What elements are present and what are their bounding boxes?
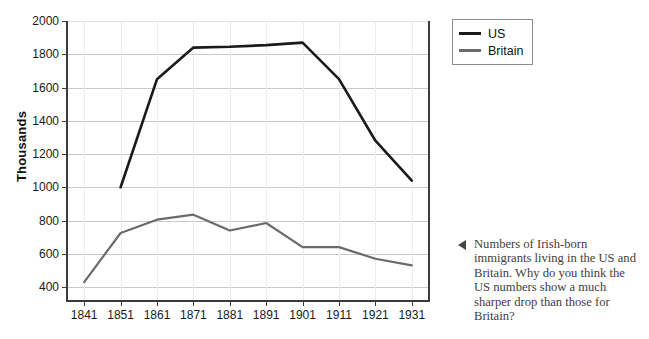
plot-area: 400600800100012001400160018002000 184118… — [66, 21, 430, 302]
x-tick-label-1891: 1891 — [253, 308, 280, 322]
y-tick-label-1200: 1200 — [32, 147, 59, 161]
x-tick-label-1861: 1861 — [144, 308, 171, 322]
x-tick-label-1851: 1851 — [107, 308, 134, 322]
caption-triangle-icon — [458, 240, 466, 250]
legend-item-britain[interactable]: Britain — [459, 42, 523, 59]
legend-item-us[interactable]: US — [459, 25, 523, 42]
x-tick-label-1881: 1881 — [216, 308, 243, 322]
y-tick-label-1800: 1800 — [32, 47, 59, 61]
x-tick-label-1871: 1871 — [180, 308, 207, 322]
x-tick-label-1921: 1921 — [362, 308, 389, 322]
y-tick-label-1000: 1000 — [32, 180, 59, 194]
x-tick-label-1901: 1901 — [289, 308, 316, 322]
caption-text: Numbers of Irish-born immigrants living … — [474, 237, 644, 323]
figure-caption: Numbers of Irish-born immigrants living … — [458, 237, 644, 323]
x-tick-label-1911: 1911 — [326, 308, 352, 322]
x-tick-label-1931: 1931 — [398, 308, 425, 322]
y-axis-title: Thousands — [14, 97, 29, 197]
y-tick-label-800: 800 — [39, 214, 59, 228]
series-lines — [66, 21, 430, 302]
y-tick-label-1400: 1400 — [32, 114, 59, 128]
chart-figure: Thousands 400600800100012001400160018002… — [0, 0, 649, 339]
legend-label-britain: Britain — [488, 44, 523, 58]
y-tick-label-1600: 1600 — [32, 81, 59, 95]
y-tick-label-400: 400 — [39, 280, 59, 294]
chart-legend: USBritain — [452, 19, 533, 65]
series-line-us — [121, 43, 412, 188]
y-tick-label-2000: 2000 — [32, 14, 59, 28]
x-tick-label-1841: 1841 — [71, 308, 98, 322]
legend-swatch-us — [459, 32, 481, 35]
legend-swatch-britain — [459, 49, 481, 52]
legend-label-us: US — [488, 27, 505, 41]
series-line-britain — [84, 215, 412, 282]
y-tick-label-600: 600 — [39, 247, 59, 261]
